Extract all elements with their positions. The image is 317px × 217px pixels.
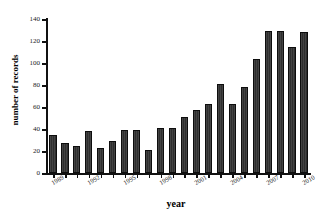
x-axis-tick xyxy=(256,173,258,178)
bar xyxy=(229,104,236,173)
bar xyxy=(253,59,260,173)
y-axis-tick xyxy=(42,173,47,175)
bar xyxy=(145,150,152,173)
bar xyxy=(288,47,295,174)
x-axis-line xyxy=(46,173,311,175)
bar xyxy=(109,141,116,173)
bar xyxy=(300,32,307,173)
x-axis-tick xyxy=(149,173,151,178)
y-axis-title: number of records xyxy=(8,10,22,170)
x-axis-tick xyxy=(65,173,67,178)
bar xyxy=(217,84,224,173)
x-axis-tick xyxy=(208,173,210,178)
bar xyxy=(121,130,128,173)
y-axis-tick-label: 100 xyxy=(30,59,41,67)
bar xyxy=(169,128,176,173)
bar xyxy=(49,135,56,174)
bar xyxy=(73,146,80,174)
x-axis-tick xyxy=(184,173,186,178)
bar xyxy=(241,87,248,173)
y-axis-tick xyxy=(42,41,47,43)
bar xyxy=(97,148,104,173)
bar xyxy=(193,110,200,173)
y-axis-tick xyxy=(42,19,47,21)
bar xyxy=(85,131,92,173)
x-axis-tick xyxy=(101,173,103,178)
x-axis-tick xyxy=(280,173,282,178)
y-axis-tick xyxy=(42,85,47,87)
y-axis-tick-label: 20 xyxy=(33,147,40,155)
y-axis-tick-label: 80 xyxy=(33,81,40,89)
x-axis-tick xyxy=(292,173,294,178)
y-axis-tick xyxy=(42,63,47,65)
x-axis-tick xyxy=(220,173,222,178)
x-axis-tick xyxy=(77,173,79,178)
y-axis-tick-label: 140 xyxy=(30,15,41,23)
y-axis-tick-label: 60 xyxy=(33,103,40,111)
bar xyxy=(133,130,140,173)
y-axis-tick xyxy=(42,151,47,153)
y-axis-tick xyxy=(42,107,47,109)
y-axis-tick-label: 120 xyxy=(30,37,41,45)
x-axis-tick xyxy=(113,173,115,178)
x-axis-title: year xyxy=(40,198,312,209)
y-axis-tick-label: 0 xyxy=(37,169,41,177)
bar xyxy=(61,143,68,173)
x-axis-tick xyxy=(173,173,175,178)
bar xyxy=(205,104,212,173)
plot-area: 0204060801001201401989199219951998200120… xyxy=(47,19,310,173)
bar xyxy=(181,117,188,173)
bar xyxy=(277,31,284,173)
x-axis-tick xyxy=(244,173,246,178)
y-axis-tick xyxy=(42,129,47,131)
x-axis-tick xyxy=(137,173,139,178)
bar-chart: number of records year 02040608010012014… xyxy=(0,0,317,217)
bar xyxy=(265,31,272,173)
bar xyxy=(157,128,164,173)
y-axis-tick-label: 40 xyxy=(33,125,40,133)
